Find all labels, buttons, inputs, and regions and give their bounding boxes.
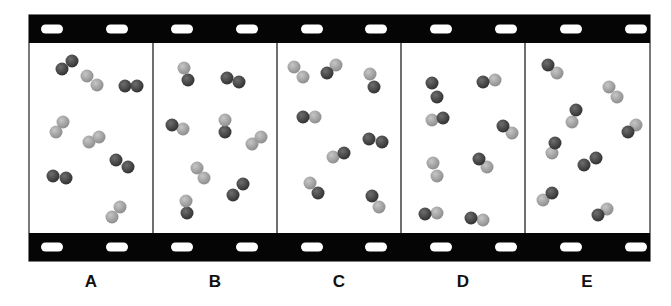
sprocket-hole [495, 243, 517, 252]
light-atom [431, 207, 444, 220]
sprocket-hole [365, 25, 387, 34]
dark-atom [60, 172, 73, 185]
sprocket-hole [625, 25, 647, 34]
light-atom [81, 70, 94, 83]
dark-atom [297, 111, 310, 124]
sprocket-hole [495, 25, 517, 34]
light-atom [431, 170, 444, 183]
frame-label-c: C [319, 272, 359, 292]
dark-atom [131, 80, 144, 93]
dark-atom [592, 209, 605, 222]
dark-atom [465, 212, 478, 225]
dark-atom [497, 120, 510, 133]
sprocket-hole [106, 25, 128, 34]
dark-atom [590, 152, 603, 165]
sprocket-hole [560, 243, 582, 252]
film-strip-figure: ABCDE [0, 0, 671, 306]
dark-atom [233, 76, 246, 89]
light-atom [477, 214, 490, 227]
frame-label-a: A [71, 272, 111, 292]
dark-atom [66, 55, 79, 68]
dark-atom [181, 207, 194, 220]
dark-atom [419, 208, 432, 221]
light-atom [57, 116, 70, 129]
dark-atom [570, 104, 583, 117]
dark-atom [368, 81, 381, 94]
dark-atom [166, 119, 179, 132]
light-atom [114, 201, 127, 214]
dark-atom [578, 159, 591, 172]
sprocket-hole [365, 243, 387, 252]
light-atom [178, 62, 191, 75]
light-atom [566, 116, 579, 129]
dark-atom [431, 91, 444, 104]
sprocket-hole [430, 243, 452, 252]
dark-atom [549, 137, 562, 150]
dark-atom [119, 80, 132, 93]
film-strip [0, 0, 671, 306]
sprocket-hole [236, 243, 258, 252]
dark-atom [227, 189, 240, 202]
light-atom [219, 114, 232, 127]
dark-atom [219, 126, 232, 139]
light-atom [373, 201, 386, 214]
sprocket-hole [430, 25, 452, 34]
dark-atom [376, 136, 389, 149]
light-atom [297, 71, 310, 84]
dark-atom [321, 67, 334, 80]
dark-atom [338, 147, 351, 160]
light-atom [611, 91, 624, 104]
dark-atom [363, 133, 376, 146]
light-atom [489, 74, 502, 87]
dark-atom [546, 187, 559, 200]
sprocket-hole [171, 25, 193, 34]
light-atom [426, 114, 439, 127]
sprocket-hole [625, 243, 647, 252]
dark-atom [122, 161, 135, 174]
frame-label-d: D [443, 272, 483, 292]
dark-atom [182, 74, 195, 87]
sprocket-hole [41, 25, 63, 34]
dark-atom [542, 59, 555, 72]
dark-atom [47, 170, 60, 183]
light-atom [364, 68, 377, 81]
sprocket-hole [236, 25, 258, 34]
light-atom [255, 131, 268, 144]
sprocket-hole [560, 25, 582, 34]
sprocket-hole [106, 243, 128, 252]
dark-atom [437, 112, 450, 125]
sprocket-hole [301, 243, 323, 252]
dark-atom [110, 154, 123, 167]
light-atom [304, 177, 317, 190]
light-atom [91, 79, 104, 92]
frame-label-e: E [567, 272, 607, 292]
dark-atom [477, 76, 490, 89]
dark-atom [237, 178, 250, 191]
light-atom [180, 195, 193, 208]
sprocket-hole [171, 243, 193, 252]
light-atom [427, 157, 440, 170]
sprocket-hole [41, 243, 63, 252]
dark-atom [473, 153, 486, 166]
light-atom [288, 61, 301, 74]
light-atom [198, 172, 211, 185]
dark-atom [221, 72, 234, 85]
light-atom [93, 131, 106, 144]
dark-atom [426, 77, 439, 90]
frame-label-b: B [195, 272, 235, 292]
light-atom [309, 111, 322, 124]
sprocket-hole [301, 25, 323, 34]
dark-atom [622, 126, 635, 139]
dark-atom [366, 190, 379, 203]
